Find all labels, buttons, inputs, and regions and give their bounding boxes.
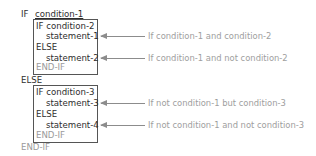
inner-block-2-end-if: END-IF: [36, 130, 65, 140]
annotation-4: If not condition-1 and not condition-3: [148, 120, 304, 130]
inner-block-2-else: ELSE: [36, 109, 57, 119]
inner-block-2-statement-true: statement-3: [46, 98, 99, 108]
outer-else-keyword: ELSE: [21, 75, 42, 85]
inner-block-2-if-line: IF condition-3: [36, 87, 95, 97]
annotation-1: If condition-1 and condition-2: [148, 31, 271, 41]
outer-condition: condition-1: [35, 9, 83, 19]
outer-if-keyword: IF: [21, 9, 28, 19]
arrow-left-icon: [101, 103, 145, 104]
outer-end-if: END-IF: [21, 142, 50, 152]
annotation-2: If condition-1 and not condition-2: [148, 53, 288, 63]
annotation-3: If not condition-1 but condition-3: [148, 98, 286, 108]
arrow-left-icon: [101, 125, 145, 126]
inner-block-1-statement-true: statement-1: [46, 31, 99, 41]
arrow-left-icon: [101, 58, 145, 59]
inner-block-2-statement-false: statement-4: [46, 120, 99, 130]
inner-block-1-end-if: END-IF: [36, 62, 65, 72]
inner-block-1-if-line: IF condition-2: [36, 21, 95, 31]
arrow-left-icon: [101, 36, 145, 37]
inner-block-1-else: ELSE: [36, 42, 57, 52]
